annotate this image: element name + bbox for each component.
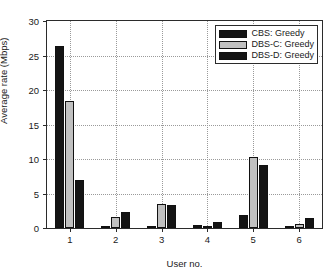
bar — [239, 215, 248, 228]
y-tick-mark — [43, 90, 47, 91]
x-axis-title: User no. — [46, 258, 323, 269]
x-tick-label: 3 — [142, 234, 182, 245]
bar — [305, 218, 314, 228]
y-tick-label: 20 — [0, 85, 39, 96]
bar — [157, 204, 166, 228]
bar — [249, 157, 258, 228]
bar — [285, 226, 294, 228]
y-tick-label: 10 — [0, 154, 39, 165]
bar — [147, 226, 156, 228]
bar — [101, 226, 110, 228]
bar — [65, 101, 74, 228]
x-tick-mark — [253, 228, 254, 232]
chart-figure: Average rate (Mbps) User no. CBS: Greedy… — [0, 0, 333, 280]
bar — [193, 225, 202, 228]
y-tick-mark — [43, 56, 47, 57]
legend-label: DBS-D: Greedy — [251, 50, 314, 61]
y-tick-label: 0 — [0, 223, 39, 234]
legend-item[interactable]: DBS-D: Greedy — [219, 50, 314, 61]
bar — [111, 217, 120, 228]
x-tick-label: 1 — [50, 234, 90, 245]
bar — [75, 180, 84, 228]
y-tick-label: 15 — [0, 119, 39, 130]
y-tick-mark — [43, 194, 47, 195]
x-tick-mark — [116, 228, 117, 232]
x-tick-label: 2 — [96, 234, 136, 245]
plot-area: CBS: GreedyDBS-C: GreedyDBS-D: Greedy 05… — [46, 20, 323, 229]
legend-swatch — [219, 30, 247, 38]
legend-swatch — [219, 41, 247, 49]
x-tick-label: 4 — [187, 234, 227, 245]
y-tick-mark — [43, 228, 47, 229]
legend-swatch — [219, 52, 247, 60]
x-tick-mark — [207, 228, 208, 232]
y-tick-label: 30 — [0, 16, 39, 27]
bar — [213, 222, 222, 228]
y-tick-label: 5 — [0, 188, 39, 199]
bar — [167, 205, 176, 228]
legend-label: CBS: Greedy — [251, 28, 304, 39]
bar — [55, 46, 64, 228]
x-tick-mark — [70, 228, 71, 232]
legend-label: DBS-C: Greedy — [251, 39, 314, 50]
y-tick-mark — [43, 125, 47, 126]
x-tick-mark — [162, 228, 163, 232]
chart-legend: CBS: GreedyDBS-C: GreedyDBS-D: Greedy — [215, 25, 318, 64]
bar — [121, 212, 130, 228]
x-tick-mark — [299, 228, 300, 232]
legend-item[interactable]: CBS: Greedy — [219, 28, 314, 39]
x-tick-label: 5 — [233, 234, 273, 245]
x-tick-label: 6 — [279, 234, 319, 245]
bar — [259, 165, 268, 228]
legend-item[interactable]: DBS-C: Greedy — [219, 39, 314, 50]
y-tick-mark — [43, 159, 47, 160]
y-tick-mark — [43, 21, 47, 22]
y-tick-label: 25 — [0, 50, 39, 61]
